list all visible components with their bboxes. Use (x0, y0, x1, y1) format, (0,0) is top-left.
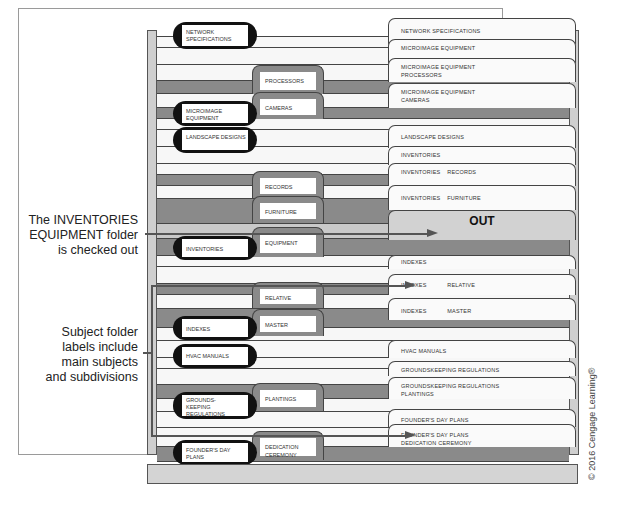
callout-line: The INVENTORIES (20, 213, 138, 228)
folder-tab-label: INVENTORIES (401, 151, 575, 159)
folder-tab-label: LANDSCAPE DESIGNS (401, 130, 575, 141)
folder-tab-label: INVENTORIES FURNITURE (401, 190, 575, 202)
primary-guide-indexes[interactable]: INDEXES (173, 316, 257, 340)
secondary-guide-furniture[interactable]: FURNITURE (252, 196, 324, 223)
folder-tab-label: INVENTORIES RECORDS (401, 168, 575, 176)
leader-line-checked-out (145, 233, 430, 235)
folder-tab[interactable]: INDEXES MASTER (388, 298, 576, 320)
out-guide-tab[interactable]: OUT (388, 210, 576, 240)
folder-tab-label: INDEXES RELATIVE (401, 279, 575, 289)
folder-tab-label: PROCESSORS (401, 71, 575, 79)
guide-label: NETWORK SPECIFICATIONS (182, 25, 248, 46)
folder-tab-label: MICROIMAGE EQUIPMENT (401, 44, 575, 52)
folder-tab-label: CAMERAS (401, 96, 575, 104)
primary-guide-groundskeeping-regulations[interactable]: GROUNDS-KEEPING REGULATIONS (173, 392, 257, 419)
folder-tab[interactable]: INVENTORIES FURNITURE (388, 185, 576, 210)
folder-tab[interactable]: INDEXES RELATIVE (388, 274, 576, 295)
folder-tab-label: DEDICATION CEREMONY (401, 439, 575, 447)
folder-tab[interactable]: MICROIMAGE EQUIPMENTCAMERAS (388, 83, 576, 108)
folder-tab-label: INDEXES (401, 258, 575, 266)
folder-tab-label: GROUNDSKEEPING REGULATIONS (401, 382, 575, 390)
guide-label: FURNITURE (260, 203, 316, 219)
folder-tab-label: PLANTINGS (401, 390, 575, 398)
bracket-line-vertical (151, 285, 153, 436)
bracket-line-bottom (151, 435, 408, 437)
secondary-guide-plantings[interactable]: PLANTINGS (252, 383, 324, 411)
primary-guide-inventories[interactable]: INVENTORIES (173, 236, 257, 260)
bracket-line-tick (143, 352, 152, 354)
guide-label: FOUNDER'S DAY PLANS (182, 443, 248, 462)
folder-tab-label: GROUNDSKEEPING REGULATIONS (401, 366, 575, 374)
guide-label: MICROIMAGE EQUIPMENT (182, 104, 248, 123)
callout-checked-out: The INVENTORIES EQUIPMENT folder is chec… (20, 213, 138, 258)
folder-tab[interactable]: INVENTORIES RECORDS (388, 163, 576, 186)
guide-label: PROCESSORS (260, 72, 316, 90)
secondary-guide-records[interactable]: RECORDS (252, 171, 324, 198)
copyright-credit: © 2016 Cengage Learning® (587, 380, 597, 480)
guide-label: MASTER (260, 316, 316, 332)
folder-tab-label: INDEXES MASTER (401, 303, 575, 315)
primary-guide-landscape-designs[interactable]: LANDSCAPE DESIGNS (173, 127, 257, 153)
guide-label: GROUNDS-KEEPING REGULATIONS (182, 395, 248, 416)
primary-guide-microimage-equipment[interactable]: MICROIMAGE EQUIPMENT (173, 101, 257, 126)
secondary-guide-processors[interactable]: PROCESSORS (252, 65, 324, 94)
folder-tab[interactable]: LANDSCAPE DESIGNS (388, 125, 576, 148)
callout-line: labels include (20, 340, 138, 355)
arrow-head-icon (405, 281, 416, 289)
callout-line: EQUIPMENT folder (20, 228, 138, 243)
folder-tab-label: FOUNDER'S DAY PLANS (401, 429, 575, 439)
callout-line: main subjects (20, 355, 138, 370)
cabinet-bottom (147, 464, 578, 484)
secondary-guide-cameras[interactable]: CAMERAS (252, 92, 324, 119)
callout-subject-labels: Subject folder labels include main subje… (20, 325, 138, 385)
out-label: OUT (469, 214, 494, 228)
folder-tab-label: FOUNDER'S DAY PLANS (401, 414, 575, 424)
primary-guide-founders-day-plans[interactable]: FOUNDER'S DAY PLANS (173, 440, 257, 465)
bracket-line-top (152, 285, 408, 287)
guide-label: INVENTORIES (182, 239, 248, 257)
guide-label: RELATIVE (260, 289, 316, 304)
folder-tab-label: NETWORK SPECIFICATIONS (401, 23, 575, 35)
arrow-head-icon (405, 431, 416, 439)
guide-label: HVAC MANUALS (182, 347, 248, 365)
guide-label: CAMERAS (260, 99, 316, 115)
folder-tab[interactable]: FOUNDER'S DAY PLANSDEDICATION CEREMONY (388, 424, 576, 447)
primary-guide-hvac-manuals[interactable]: HVAC MANUALS (173, 344, 257, 368)
callout-line: is checked out (20, 243, 138, 258)
guide-label: EQUIPMENT (260, 234, 316, 253)
folder-tab[interactable]: INDEXES (388, 255, 576, 269)
folder-tab-label: MICROIMAGE EQUIPMENT (401, 63, 575, 71)
secondary-guide-master[interactable]: MASTER (252, 309, 324, 336)
folder-tab[interactable]: GROUNDSKEEPING REGULATIONS (388, 361, 576, 376)
secondary-guide-equipment[interactable]: EQUIPMENT (252, 227, 324, 257)
folder-tab[interactable]: GROUNDSKEEPING REGULATIONSPLANTINGS (388, 377, 576, 399)
folder-tab-label: MICROIMAGE EQUIPMENT (401, 88, 575, 96)
guide-label: RECORDS (260, 178, 316, 194)
callout-line: Subject folder (20, 325, 138, 340)
folder-tab-label: HVAC MANUALS (401, 345, 575, 355)
guide-label: LANDSCAPE DESIGNS (182, 130, 248, 150)
folder-tab[interactable]: HVAC MANUALS (388, 340, 576, 358)
guide-label: DEDICATION CEREMONY (260, 438, 316, 456)
guide-label: PLANTINGS (260, 390, 316, 407)
callout-line: and subdivisions (20, 370, 138, 385)
arrow-head-icon (427, 229, 438, 237)
guide-label: INDEXES (182, 319, 248, 337)
primary-guide-network-specifications[interactable]: NETWORK SPECIFICATIONS (173, 22, 257, 49)
folder-tab[interactable]: MICROIMAGE EQUIPMENTPROCESSORS (388, 58, 576, 82)
